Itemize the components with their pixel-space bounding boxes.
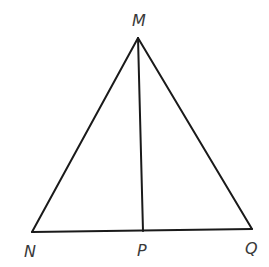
label-q: Q [245,239,258,258]
segment-mq [138,38,252,229]
label-m: M [132,11,146,30]
segment-mp [138,38,143,231]
triangle-diagram: M N P Q [0,0,269,267]
segment-mn [32,38,138,232]
label-p: P [137,241,147,260]
label-n: N [24,242,36,261]
